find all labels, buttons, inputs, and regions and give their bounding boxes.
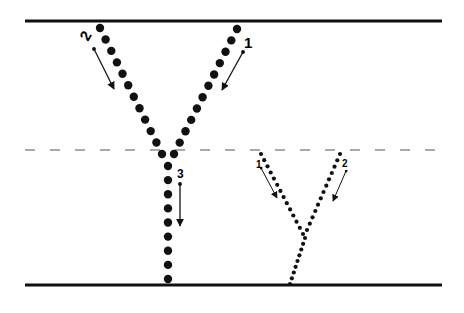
strand-dot xyxy=(324,184,328,188)
strand-dot xyxy=(298,226,302,230)
strand-dot xyxy=(301,242,305,246)
strand-dot xyxy=(164,218,172,226)
strand-dot xyxy=(292,270,296,274)
strand-dot xyxy=(164,204,172,212)
strand-dot xyxy=(294,265,298,269)
strand-dot xyxy=(285,201,289,205)
strand-dot xyxy=(118,70,126,78)
strand-dot xyxy=(164,162,172,170)
strand-dot xyxy=(290,276,294,280)
strand-dot xyxy=(319,196,323,200)
strand-dot xyxy=(164,261,172,269)
strand-dot xyxy=(321,190,325,194)
strand-dot xyxy=(193,104,201,112)
strand-dot xyxy=(272,177,276,181)
strand-dot xyxy=(294,220,298,224)
strand-dot xyxy=(221,48,229,56)
arrow-2-direction-arrow-icon xyxy=(333,171,346,201)
large-junction-arrows xyxy=(94,49,243,226)
strand-dot xyxy=(210,70,218,78)
strand-dot xyxy=(176,138,184,146)
strand-dot xyxy=(291,213,295,217)
strand-dot xyxy=(181,127,189,135)
strand-dot xyxy=(152,138,160,146)
strand-dot xyxy=(135,104,143,112)
strand-dot xyxy=(204,82,212,90)
strand-dot xyxy=(164,176,172,184)
strand-dot xyxy=(269,170,273,174)
replication-junction-diagram: 213 12 xyxy=(0,0,464,313)
strand-dot xyxy=(282,195,286,199)
strand-dot xyxy=(330,171,334,175)
strand-dot xyxy=(295,259,299,263)
strand-dot xyxy=(335,158,339,162)
strand-dot xyxy=(101,35,109,43)
strand-dot xyxy=(96,24,104,32)
strand-number-label: 3 xyxy=(177,167,184,181)
strand-dot xyxy=(158,150,166,158)
branch-2-dotted-strand xyxy=(96,24,166,158)
large-y-junction: 213 xyxy=(76,24,252,283)
strand-dot xyxy=(147,127,155,135)
strand-dot xyxy=(332,165,336,169)
strand-number-label: 1 xyxy=(244,34,252,51)
stem-3-dotted-strand xyxy=(164,162,172,283)
strand-dot xyxy=(113,58,121,66)
strand-dot xyxy=(313,209,317,213)
strand-dot xyxy=(198,93,206,101)
strand-dot xyxy=(170,150,178,158)
strand-dot xyxy=(327,177,331,181)
strand-dot xyxy=(288,282,292,286)
strand-dot xyxy=(299,247,303,251)
strand-number-label: 2 xyxy=(76,28,95,44)
strand-dot xyxy=(278,189,282,193)
strand-dot xyxy=(107,47,115,55)
arrow-1-direction-arrow-icon xyxy=(222,52,243,90)
branch-1-dotted-strand xyxy=(170,25,241,158)
strand-dot xyxy=(187,116,195,124)
small-junction-dots xyxy=(259,152,342,286)
stem-dotted-strand xyxy=(288,236,307,286)
small-y-junction: 12 xyxy=(256,152,348,286)
strand-dot xyxy=(130,93,138,101)
strand-dot xyxy=(164,190,172,198)
strand-dot xyxy=(308,222,312,226)
strand-dot xyxy=(164,275,172,283)
strand-dot xyxy=(233,25,241,33)
branch-1-dotted-strand xyxy=(259,152,305,236)
strand-dot xyxy=(216,59,224,67)
strand-dot xyxy=(227,36,235,44)
strand-dot xyxy=(316,203,320,207)
strand-dot xyxy=(164,247,172,255)
strand-dot xyxy=(310,215,314,219)
strand-dot xyxy=(259,152,263,156)
strand-dot xyxy=(303,236,307,240)
strand-dot xyxy=(262,158,266,162)
strand-dot xyxy=(164,232,172,240)
strand-dot xyxy=(275,183,279,187)
strand-dot xyxy=(297,253,301,257)
strand-number-label: 2 xyxy=(342,158,348,169)
strand-dot xyxy=(301,232,305,236)
strand-dot xyxy=(265,164,269,168)
strand-dot xyxy=(124,81,132,89)
strand-number-label: 1 xyxy=(256,159,262,170)
strand-dot xyxy=(141,115,149,123)
strand-dot xyxy=(288,207,292,211)
strand-dot xyxy=(338,152,342,156)
large-junction-dots xyxy=(96,24,241,283)
strand-dot xyxy=(305,228,309,232)
